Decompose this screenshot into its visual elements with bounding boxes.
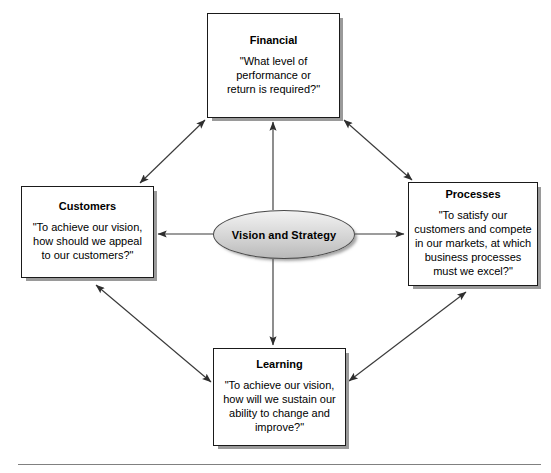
connector-financial-processes [344,120,412,180]
perspective-title-learning: Learning [256,358,302,371]
connector-customers-financial [140,120,205,183]
diagram-canvas: Financial "What level of performance or … [0,0,551,473]
perspective-title-customers: Customers [59,200,116,213]
perspective-body-financial: "What level of performance or return is … [227,54,320,96]
connector-customers-learning [96,285,211,382]
footer-divider [18,464,541,465]
vision-and-strategy-ellipse[interactable]: Vision and Strategy [213,210,355,259]
perspective-title-processes: Processes [445,188,500,201]
vision-and-strategy-label: Vision and Strategy [232,229,336,241]
perspective-box-processes[interactable]: Processes "To satisfy our customers and … [408,182,538,286]
perspective-body-learning: "To achieve our vision, how will we sust… [223,378,336,434]
perspective-body-processes: "To satisfy our customers and compete in… [414,208,531,278]
perspective-box-learning[interactable]: Learning "To achieve our vision, how wil… [213,348,346,446]
perspective-body-customers: "To achieve our vision, how should we ap… [33,220,143,262]
perspective-box-financial[interactable]: Financial "What level of performance or … [207,13,340,118]
connector-learning-processes [349,292,466,381]
perspective-title-financial: Financial [250,34,298,47]
perspective-box-customers[interactable]: Customers "To achieve our vision, how sh… [21,186,154,278]
